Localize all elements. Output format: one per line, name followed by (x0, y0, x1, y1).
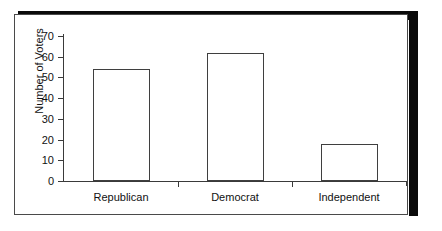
y-axis-tick-label: 70 (20, 31, 54, 42)
y-axis-tick (58, 140, 63, 141)
bar-independent (321, 144, 378, 181)
y-axis-tick-label: 10 (20, 155, 54, 166)
chart-frame: Number of Voters 706050403020100 Republi… (14, 14, 408, 215)
x-axis-separator-tick (292, 182, 293, 187)
x-axis-label-independent: Independent (289, 191, 409, 203)
x-axis-label-republican: Republican (61, 191, 181, 203)
y-axis-tick (58, 160, 63, 161)
y-axis-tick (58, 119, 63, 120)
y-axis-tick (58, 181, 63, 182)
y-axis-tick-label: 30 (20, 114, 54, 125)
bar-democrat (207, 53, 264, 181)
y-axis-tick-label: 0 (20, 176, 54, 187)
bar-republican (93, 69, 150, 181)
plot-area: Number of Voters 706050403020100 Republi… (15, 15, 409, 216)
y-axis-tick-label: 50 (20, 72, 54, 83)
frame-shadow-right (409, 11, 418, 216)
x-axis-label-democrat: Democrat (175, 191, 295, 203)
y-axis-tick-label: 60 (20, 52, 54, 63)
y-axis-tick (58, 36, 63, 37)
y-axis-tick-label: 20 (20, 135, 54, 146)
y-axis-tick-label: 40 (20, 93, 54, 104)
x-axis-end-tick (406, 181, 407, 186)
x-axis-line (63, 181, 407, 182)
y-axis-tick (58, 77, 63, 78)
y-axis-tick (58, 98, 63, 99)
x-axis-separator-tick (178, 182, 179, 187)
y-axis-line (63, 34, 64, 182)
y-axis-tick (58, 57, 63, 58)
